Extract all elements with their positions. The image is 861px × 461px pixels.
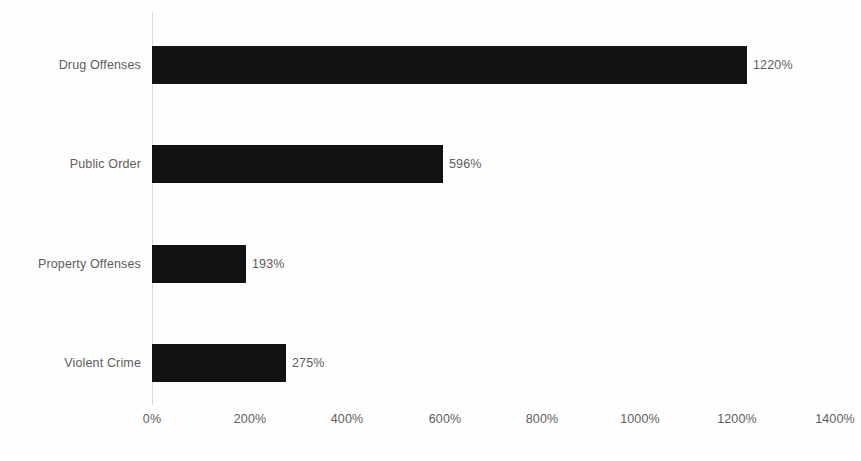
x-axis-tick-label: 400% (331, 412, 364, 426)
bar-row: Property Offenses 193% (0, 245, 861, 283)
x-axis-tick-label: 0% (143, 412, 161, 426)
value-label: 193% (252, 257, 285, 271)
x-axis-tick-label: 200% (234, 412, 267, 426)
x-axis-tick-label: 800% (526, 412, 559, 426)
category-label: Property Offenses (38, 257, 152, 271)
bar-row: Violent Crime 275% (0, 344, 861, 382)
value-label: 275% (292, 356, 325, 370)
bar-violent-crime (152, 344, 286, 382)
category-label: Drug Offenses (59, 58, 152, 72)
bar-property-offenses (152, 245, 246, 283)
value-label: 596% (449, 157, 482, 171)
x-axis-tick-label: 1000% (620, 412, 660, 426)
bar-drug-offenses (152, 46, 747, 84)
bar-row: Drug Offenses 1220% (0, 46, 861, 84)
plot-area: Drug Offenses 1220% Public Order 596% Pr… (0, 0, 861, 405)
bar-row: Public Order 596% (0, 145, 861, 183)
category-label: Violent Crime (64, 356, 152, 370)
bar-chart: Drug Offenses 1220% Public Order 596% Pr… (0, 0, 861, 461)
bar-public-order (152, 145, 443, 183)
value-label: 1220% (753, 58, 793, 72)
x-axis-tick-label: 600% (429, 412, 462, 426)
x-axis-tick-label: 1200% (717, 412, 757, 426)
x-axis-tick-label: 1400% (815, 412, 855, 426)
category-label: Public Order (70, 157, 152, 171)
